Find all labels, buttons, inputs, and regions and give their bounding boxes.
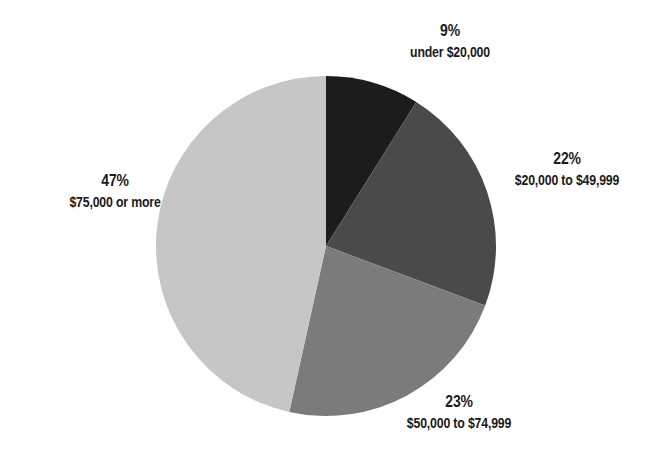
slice-category: $50,000 to $74,999 bbox=[398, 413, 521, 433]
slice-label-75000-or-more: 47% $75,000 or more bbox=[58, 170, 173, 212]
slice-label-50000-74999: 23% $50,000 to $74,999 bbox=[398, 391, 521, 433]
slice-category: under $20,000 bbox=[397, 42, 504, 62]
slice-percent: 23% bbox=[398, 391, 521, 413]
slice-category: $75,000 or more bbox=[58, 192, 173, 212]
slice-label-20000-49999: 22% $20,000 to $49,999 bbox=[506, 148, 629, 190]
slice-percent: 9% bbox=[397, 20, 504, 42]
pie-slices bbox=[156, 76, 496, 416]
slice-percent: 22% bbox=[506, 148, 629, 170]
slice-label-under-20000: 9% under $20,000 bbox=[397, 20, 504, 62]
slice-category: $20,000 to $49,999 bbox=[506, 170, 629, 190]
pie-chart bbox=[0, 0, 656, 467]
slice-percent: 47% bbox=[58, 170, 173, 192]
